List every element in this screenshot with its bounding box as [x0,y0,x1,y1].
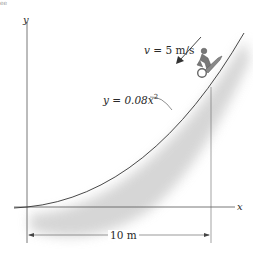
motorcycle-rider [197,48,222,77]
equation-exponent: 2 [154,93,158,101]
dimension-arrow-right [204,233,210,237]
dimension-arrow-left [28,233,34,237]
equation-text: y = 0.08x [103,94,154,106]
corner-text: ee [0,0,7,6]
x-axis-label: x [237,202,243,212]
dimension-label: 10 m [108,230,139,241]
velocity-value: = 5 m/s [150,44,194,56]
motorcycle-on-parabolic-ramp-diagram: ee y x v = 5 m/s y = 0.08x2 10 m [0,0,253,257]
curve-equation-label: y = 0.08x2 [103,94,158,106]
y-axis-label: y [23,15,29,25]
diagram-canvas [0,0,253,257]
velocity-label: v = 5 m/s [144,45,194,56]
